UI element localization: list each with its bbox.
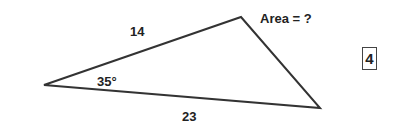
side-label-14: 14 bbox=[130, 25, 144, 38]
triangle bbox=[44, 17, 320, 108]
area-question: Area = ? bbox=[260, 12, 312, 25]
side-label-23: 23 bbox=[182, 110, 196, 123]
triangle-diagram bbox=[0, 0, 398, 133]
angle-label: 35° bbox=[97, 75, 117, 88]
problem-number-box: 4 bbox=[362, 47, 377, 70]
